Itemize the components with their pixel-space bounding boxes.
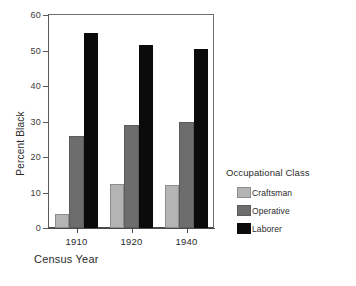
y-tick-mark bbox=[43, 122, 48, 123]
legend-item-craftsman: Craftsman bbox=[237, 187, 352, 198]
legend-swatch-laborer bbox=[237, 223, 251, 234]
x-tick-mark bbox=[187, 229, 188, 233]
legend-swatch-operative bbox=[237, 205, 251, 216]
bar-operative-1920 bbox=[124, 125, 139, 228]
x-tick-label-1910: 1910 bbox=[52, 236, 102, 247]
legend-item-laborer: Laborer bbox=[237, 223, 352, 234]
legend-swatch-craftsman bbox=[237, 187, 251, 198]
legend-label: Craftsman bbox=[252, 188, 292, 198]
x-tick-mark bbox=[132, 229, 133, 233]
x-tick-label-1940: 1940 bbox=[162, 236, 212, 247]
bar-laborer-1920 bbox=[139, 45, 154, 228]
y-tick-mark bbox=[43, 15, 48, 16]
bar-chart-figure: 6050403020100 Percent Black 191019201940… bbox=[0, 0, 356, 286]
legend: Occupational Class CraftsmanOperativeLab… bbox=[226, 167, 352, 241]
y-tick-mark bbox=[43, 51, 48, 52]
y-tick-label: 0 bbox=[1, 224, 41, 233]
bar-laborer-1940 bbox=[194, 49, 209, 228]
bar-operative-1940 bbox=[179, 122, 194, 229]
bar-craftsman-1910 bbox=[55, 214, 70, 228]
legend-label: Operative bbox=[252, 206, 290, 216]
x-tick-label-1920: 1920 bbox=[107, 236, 157, 247]
legend-items: CraftsmanOperativeLaborer bbox=[226, 187, 352, 234]
x-tick-mark bbox=[77, 229, 78, 233]
bar-craftsman-1920 bbox=[110, 184, 125, 228]
x-axis-title: Census Year bbox=[34, 253, 99, 265]
y-tick-mark bbox=[43, 86, 48, 87]
legend-label: Laborer bbox=[252, 224, 282, 234]
y-tick-mark bbox=[43, 157, 48, 158]
y-tick-label: 50 bbox=[1, 47, 41, 56]
y-axis-title: Percent Black bbox=[15, 94, 26, 194]
legend-item-operative: Operative bbox=[237, 205, 352, 216]
bar-laborer-1910 bbox=[84, 33, 99, 228]
bar-operative-1910 bbox=[69, 136, 84, 228]
y-tick-mark bbox=[43, 193, 48, 194]
y-tick-label: 40 bbox=[1, 82, 41, 91]
bars-layer bbox=[49, 15, 214, 228]
bar-craftsman-1940 bbox=[165, 185, 180, 228]
y-tick-label: 60 bbox=[1, 11, 41, 20]
legend-title: Occupational Class bbox=[226, 167, 352, 178]
y-tick-mark bbox=[43, 228, 48, 229]
